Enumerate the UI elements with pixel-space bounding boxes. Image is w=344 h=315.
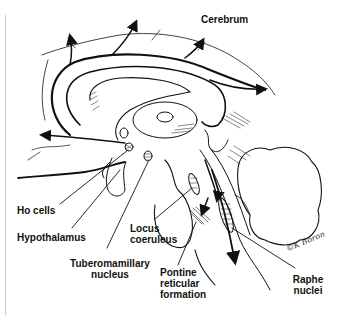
arrow-to-parietal-cortex bbox=[112, 22, 136, 55]
arrow-to-frontal-cortex bbox=[70, 36, 72, 65]
label-tuberomamillary-nucleus: Tuberomamillary nucleus bbox=[60, 258, 160, 280]
pontine-reticular-hatch bbox=[190, 207, 210, 224]
label-pontine-line2: reticular bbox=[160, 278, 206, 289]
label-raphe-nuclei: Raphe nuclei bbox=[288, 274, 328, 296]
label-cerebrum: Cerebrum bbox=[201, 14, 248, 25]
label-locus-line2: coeruleus bbox=[130, 234, 177, 245]
ho-cells-crosshatch bbox=[126, 145, 132, 149]
ventricle-hatch bbox=[90, 92, 99, 110]
arrow-descending-2 bbox=[202, 198, 208, 214]
cortex-outline bbox=[42, 34, 275, 95]
brainstem-posterior-1 bbox=[200, 150, 270, 290]
massa-intermedia bbox=[157, 112, 173, 122]
label-tuberomamillary-line2: nucleus bbox=[60, 269, 160, 280]
tectum-hatch bbox=[222, 112, 250, 128]
label-tuberomamillary-line1: Tuberomamillary bbox=[60, 258, 160, 269]
leader-hypothalamus bbox=[72, 170, 120, 228]
label-ho-cells: Ho cells bbox=[17, 205, 55, 216]
optic-nerve bbox=[18, 162, 125, 178]
midbrain-tectum bbox=[205, 130, 228, 152]
label-hypothalamus: Hypothalamus bbox=[17, 232, 86, 243]
label-raphe-line1: Raphe bbox=[288, 274, 328, 285]
label-locus-coeruleus: Locus coeruleus bbox=[130, 223, 177, 245]
locus-coeruleus-marker bbox=[186, 172, 201, 195]
label-pontine-line1: Pontine bbox=[160, 267, 206, 278]
cerebellum-outline bbox=[238, 147, 322, 245]
cortex-sulcus-branch-1 bbox=[68, 30, 205, 50]
corpus-callosum-inner bbox=[67, 67, 226, 127]
tuberomamillary-marker bbox=[144, 151, 152, 161]
leader-locus-coeruleus bbox=[155, 188, 192, 219]
corpus-callosum-outer bbox=[52, 54, 265, 135]
leader-pontine-reticular bbox=[178, 222, 196, 265]
label-locus-line1: Locus bbox=[130, 223, 177, 234]
arrow-to-occipital-cortex bbox=[185, 40, 203, 58]
label-pontine-reticular-formation: Pontine reticular formation bbox=[160, 267, 206, 300]
brain-diagram: Cerebrum Ho cells Hypothalamus Tuberomam… bbox=[0, 0, 344, 315]
arrow-to-forebrain-basal bbox=[42, 135, 125, 143]
cerebellum-hatch bbox=[228, 146, 250, 164]
thalamus-hatch bbox=[172, 124, 194, 133]
anterior-commissure bbox=[120, 128, 128, 138]
tuberomamillary-hatch bbox=[145, 154, 151, 160]
label-raphe-line2: nuclei bbox=[288, 285, 328, 296]
cortex-sulcus-left bbox=[42, 60, 48, 120]
label-pontine-line3: formation bbox=[160, 289, 206, 300]
raphe-nuclei-marker bbox=[216, 196, 237, 233]
thalamus-outline bbox=[133, 102, 197, 138]
cortex-sulcus-branch-2 bbox=[28, 145, 70, 160]
